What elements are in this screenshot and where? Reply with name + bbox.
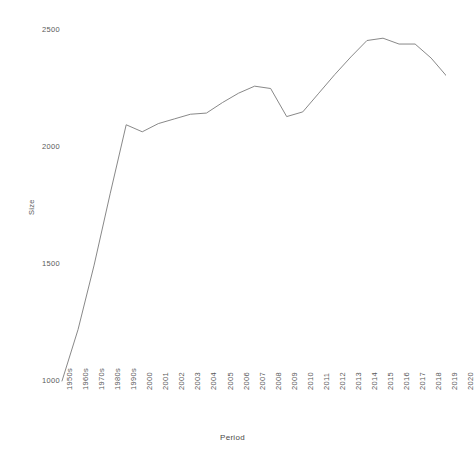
x-tick-label: 2000 bbox=[145, 372, 154, 390]
x-tick-label: 2003 bbox=[193, 372, 202, 390]
x-tick-label: 2009 bbox=[290, 372, 299, 390]
series-line-size bbox=[62, 38, 446, 381]
x-tick-label: 2010 bbox=[306, 372, 315, 390]
x-tick-label: 2004 bbox=[209, 372, 218, 390]
x-tick-label: 2013 bbox=[354, 372, 363, 390]
x-tick-label: 2011 bbox=[322, 373, 331, 390]
x-tick-label: 2016 bbox=[402, 372, 411, 390]
x-tick-label: 1990s bbox=[129, 368, 138, 390]
x-tick-label: 2015 bbox=[386, 372, 395, 390]
x-tick-label: 2019 bbox=[450, 372, 459, 390]
x-tick-label: 2006 bbox=[242, 372, 251, 390]
x-tick-label: 1970s bbox=[97, 368, 106, 390]
x-tick-label: 2017 bbox=[418, 372, 427, 390]
x-tick-label: 1980s bbox=[113, 368, 122, 390]
x-tick-label: 2001 bbox=[161, 372, 170, 390]
x-tick-label: 2008 bbox=[274, 372, 283, 390]
x-tick-label: 2002 bbox=[177, 372, 186, 390]
x-tick-label: 2012 bbox=[338, 372, 347, 390]
x-tick-label: 1960s bbox=[81, 368, 90, 390]
x-tick-label: 1950s bbox=[65, 368, 74, 390]
x-tick-label: 2014 bbox=[370, 372, 379, 390]
x-tick-label: 2020 bbox=[466, 372, 475, 390]
x-axis-title: Period bbox=[220, 433, 245, 442]
x-tick-label: 2005 bbox=[226, 372, 235, 390]
x-tick-label: 2007 bbox=[258, 372, 267, 390]
x-tick-label: 2018 bbox=[434, 372, 443, 390]
